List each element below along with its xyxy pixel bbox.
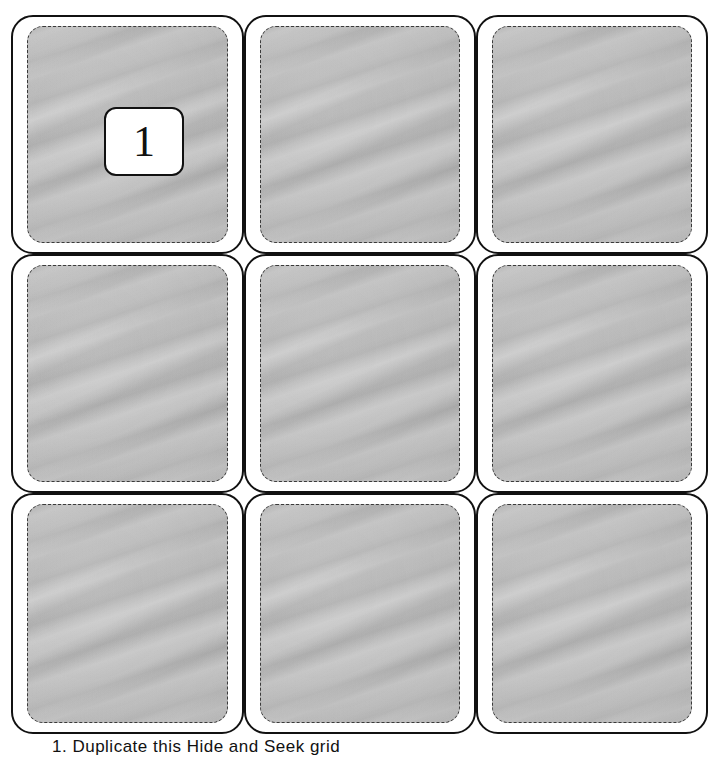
grid-cell-r3-c1[interactable]	[11, 493, 244, 734]
grid-cell-r1-c1[interactable]: 1	[11, 15, 244, 254]
instruction-caption: 1. Duplicate this Hide and Seek grid	[52, 737, 340, 757]
textured-panel	[260, 265, 460, 482]
textured-panel	[492, 26, 692, 243]
grid-cell-r2-c2[interactable]	[244, 254, 476, 493]
grid-cell-r3-c2[interactable]	[244, 493, 476, 734]
cell-number-badge: 1	[104, 107, 184, 176]
grid-cell-r1-c2[interactable]	[244, 15, 476, 254]
textured-panel	[27, 265, 228, 482]
textured-panel	[27, 504, 228, 723]
hide-and-seek-grid: 1	[10, 14, 708, 734]
grid-cell-r2-c3[interactable]	[476, 254, 708, 493]
cell-number: 1	[133, 120, 155, 164]
grid-cell-r1-c3[interactable]	[476, 15, 708, 254]
textured-panel	[492, 504, 692, 723]
textured-panel: 1	[27, 26, 228, 243]
grid-cell-r3-c3[interactable]	[476, 493, 708, 734]
textured-panel	[260, 26, 460, 243]
textured-panel	[260, 504, 460, 723]
grid-cell-r2-c1[interactable]	[11, 254, 244, 493]
textured-panel	[492, 265, 692, 482]
